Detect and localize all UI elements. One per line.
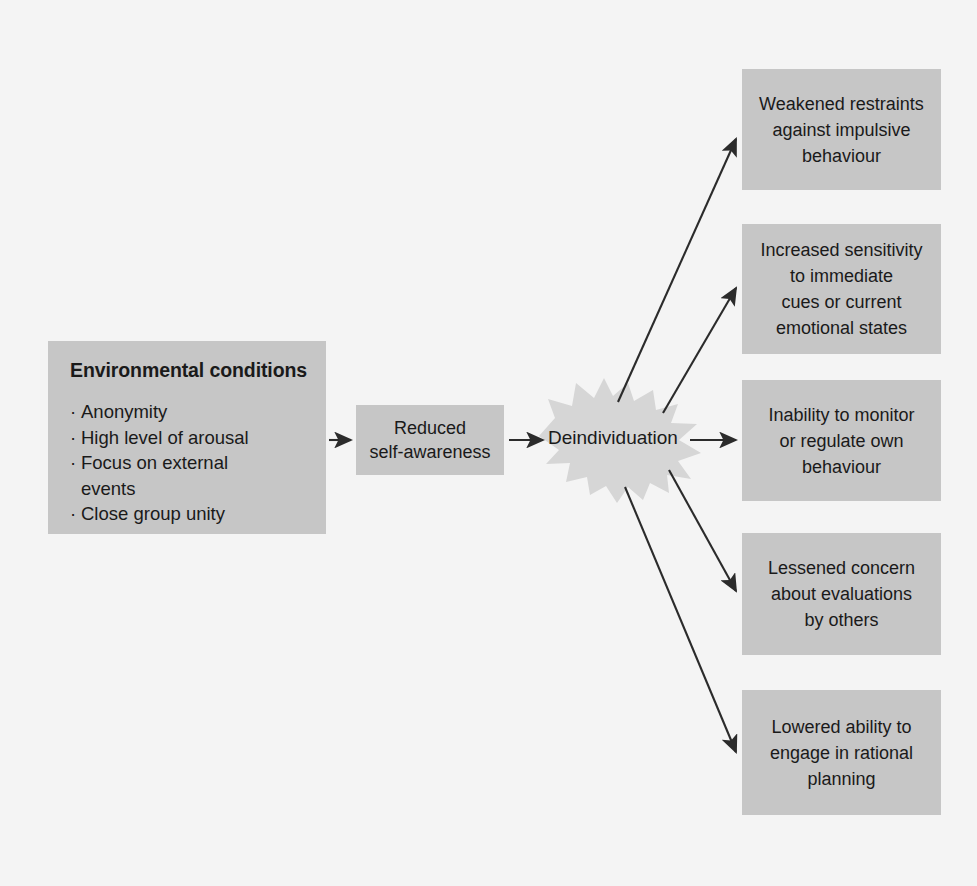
node-line: self-awareness: [369, 440, 490, 464]
list-item: ·Close group unity: [70, 501, 249, 527]
list-item: ·Anonymity: [70, 399, 249, 425]
outcome-box-lowered-ability: Lowered ability to engage in rational pl…: [742, 690, 941, 815]
node-line: by others: [804, 607, 878, 633]
arrow-deindividuation-to-weakened-restraints: [618, 139, 736, 402]
deindividuation-label: Deindividuation: [548, 427, 678, 449]
node-line: against impulsive: [772, 117, 910, 143]
environmental-conditions-bullet-list: ·Anonymity ·High level of arousal ·Focus…: [70, 399, 249, 527]
node-line: Lessened concern: [768, 555, 915, 581]
outcome-box-inability-to-monitor: Inability to monitor or regulate own beh…: [742, 380, 941, 501]
node-line: behaviour: [802, 454, 881, 480]
node-line: cues or current: [781, 289, 901, 315]
bullet-dot-icon: ·: [70, 450, 81, 476]
arrow-deindividuation-to-lessened-concern: [669, 470, 736, 591]
node-line: planning: [807, 766, 875, 792]
bullet-dot-icon: ·: [70, 399, 81, 425]
node-line: to immediate: [790, 263, 893, 289]
list-item: ·High level of arousal: [70, 425, 249, 451]
node-line: Lowered ability to: [771, 714, 911, 740]
outcome-box-weakened-restraints: Weakened restraints against impulsive be…: [742, 69, 941, 190]
list-item-continuation: events: [70, 476, 249, 502]
node-line: or regulate own: [779, 428, 903, 454]
environmental-conditions-heading: Environmental conditions: [70, 359, 307, 382]
node-line: emotional states: [776, 315, 907, 341]
list-item: ·Focus on external: [70, 450, 249, 476]
node-line: Inability to monitor: [768, 402, 914, 428]
arrow-deindividuation-to-lowered-ability: [625, 487, 736, 752]
deindividuation-flow-diagram: Environmental conditions ·Anonymity ·Hig…: [0, 0, 977, 886]
outcome-box-increased-sensitivity: Increased sensitivity to immediate cues …: [742, 224, 941, 354]
bullet-dot-icon: ·: [70, 425, 81, 451]
arrow-deindividuation-to-increased-sensitivity: [663, 288, 736, 413]
outcome-box-lessened-concern: Lessened concern about evaluations by ot…: [742, 533, 941, 655]
reduced-self-awareness-box: Reduced self-awareness: [356, 405, 504, 475]
node-line: Weakened restraints: [759, 91, 924, 117]
bullet-dot-icon: ·: [70, 501, 81, 527]
node-line: Reduced: [394, 416, 466, 440]
node-line: about evaluations: [771, 581, 912, 607]
environmental-conditions-box: Environmental conditions ·Anonymity ·Hig…: [48, 341, 326, 534]
node-line: Increased sensitivity: [760, 237, 922, 263]
node-line: behaviour: [802, 143, 881, 169]
node-line: engage in rational: [770, 740, 913, 766]
